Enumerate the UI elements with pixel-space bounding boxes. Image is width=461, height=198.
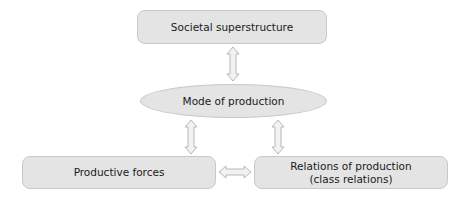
double-arrow-vertical-icon <box>271 119 285 155</box>
double-arrow-vertical-icon <box>184 119 198 155</box>
node-societal-superstructure: Societal superstructure <box>137 10 327 44</box>
double-arrow-horizontal-icon <box>218 165 252 179</box>
node-relations-of-production: Relations of production (class relations… <box>254 156 448 189</box>
node-label-group: Relations of production (class relations… <box>290 160 411 186</box>
node-label-line: (class relations) <box>290 173 411 186</box>
node-mode-of-production: Mode of production <box>140 84 327 118</box>
node-label: Productive forces <box>74 166 165 179</box>
node-label: Mode of production <box>183 95 285 108</box>
double-arrow-vertical-icon <box>226 46 240 82</box>
node-label: Societal superstructure <box>171 21 293 34</box>
node-label-line: Relations of production <box>290 160 411 173</box>
node-productive-forces: Productive forces <box>22 156 216 189</box>
